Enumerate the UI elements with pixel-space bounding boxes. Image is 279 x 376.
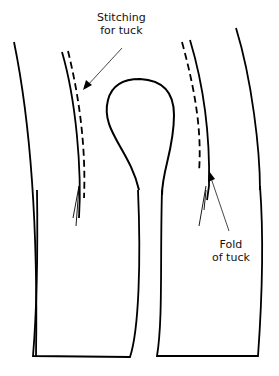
left-fabric-panel [33,190,139,357]
stitching-label-line2: for tuck [97,24,146,37]
right-fabric-panel [157,186,262,356]
fold-leader-line [211,178,229,231]
tuck-diagram: Stitching for tuck Fold of tuck [0,0,279,376]
right-fold-tail [199,186,206,226]
fold-label-line1: Fold [212,238,250,251]
center-tuck-loop [107,79,174,195]
stitching-label: Stitching for tuck [97,11,146,37]
right-fabric-outer-edge [236,28,260,190]
right-stitching-line [182,42,200,172]
fold-arrowhead-icon [208,171,215,182]
left-fold-tail [73,186,79,226]
diagram-drawing [0,0,279,376]
left-fabric-outer-edge [14,42,36,356]
fold-label-line2: of tuck [212,251,250,264]
right-fabric-fold-edge [190,40,209,200]
stitching-leader-line [87,48,122,86]
stitching-label-line1: Stitching [97,11,146,24]
left-fabric-fold-edge [62,52,80,218]
fold-label: Fold of tuck [212,238,250,264]
